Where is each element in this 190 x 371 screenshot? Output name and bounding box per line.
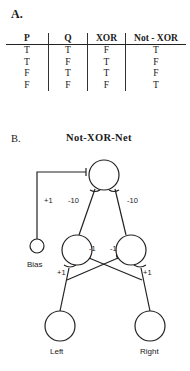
node-hidden-left (62, 235, 92, 265)
label-bias: Bias (27, 260, 43, 269)
node-left (45, 311, 75, 341)
label-right: Right (140, 347, 159, 356)
edge-hleft-output (79, 189, 95, 235)
node-bias (30, 239, 44, 253)
edge-bias-output (37, 172, 86, 239)
network-diagram (0, 0, 190, 371)
weight-bias-output: +1 (44, 196, 53, 205)
weight-right-hright: +1 (143, 268, 152, 277)
node-right (135, 311, 165, 341)
weight-hright-output: -10 (127, 196, 138, 205)
edge-hright-output (115, 189, 126, 235)
weight-right-hleft: -1 (89, 244, 96, 253)
node-output (89, 160, 119, 190)
weight-hleft-output: -10 (68, 196, 79, 205)
weight-left-hright: -1 (110, 244, 117, 253)
node-hidden-right (116, 235, 146, 265)
weight-left-hleft: +1 (57, 268, 66, 277)
label-left: Left (50, 347, 63, 356)
